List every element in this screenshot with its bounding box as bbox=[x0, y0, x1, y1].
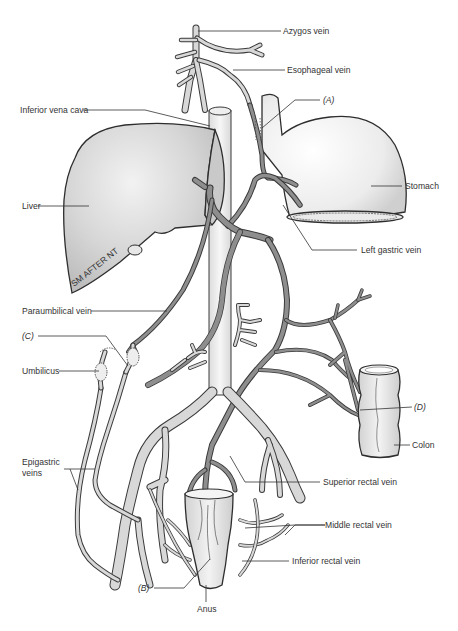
label-left-gastric-vein: Left gastric vein bbox=[361, 245, 421, 255]
epigastric-veins bbox=[77, 345, 138, 580]
stomach bbox=[262, 94, 406, 223]
label-paraumbilical-vein: Paraumbilical vein bbox=[22, 306, 92, 316]
umbilicus bbox=[95, 348, 139, 381]
label-colon: Colon bbox=[412, 440, 435, 450]
label-azygos-vein: Azygos vein bbox=[283, 26, 330, 36]
label-liver: Liver bbox=[22, 201, 41, 211]
label-inferior-vena-cava: Inferior vena cava bbox=[20, 105, 89, 115]
label-inferior-rectal-vein: Inferior rectal vein bbox=[292, 556, 361, 566]
label-middle-rectal-vein: Middle rectal vein bbox=[325, 520, 392, 530]
label-b: (B) bbox=[138, 583, 150, 593]
label-epigastric-veins-line2: veins bbox=[22, 468, 42, 478]
label-umbilicus: Umbilicus bbox=[22, 366, 59, 376]
portal-systemic-anastomoses-diagram: SM AFTER NT bbox=[0, 0, 458, 631]
label-superior-rectal-vein: Superior rectal vein bbox=[323, 477, 397, 487]
label-esophageal-vein: Esophageal vein bbox=[287, 65, 351, 75]
label-epigastric-veins-line1: Epigastric bbox=[22, 457, 60, 467]
liver: SM AFTER NT bbox=[64, 123, 225, 293]
label-c: (C) bbox=[22, 331, 34, 341]
label-stomach: Stomach bbox=[405, 181, 439, 191]
colon bbox=[358, 365, 400, 458]
azygos-vein bbox=[177, 28, 262, 110]
label-a: (A) bbox=[323, 95, 335, 105]
colic-veins bbox=[260, 290, 370, 415]
label-anus: Anus bbox=[197, 604, 217, 614]
label-d: (D) bbox=[414, 402, 426, 412]
